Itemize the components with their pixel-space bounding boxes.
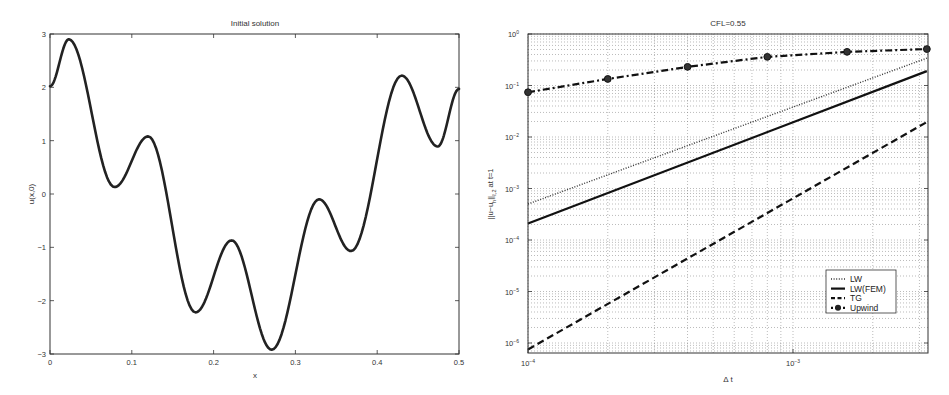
series-lw (528, 58, 927, 204)
left-axis-ticks: 00.10.20.30.40.5−3−2−10123 (37, 30, 464, 367)
y-tick-label: 100 (508, 29, 519, 39)
error-convergence-chart: CFL=0.55 10−410−310−610−510−410−310−210−… (486, 19, 930, 384)
y-tick-label: 10−3 (505, 184, 519, 194)
x-tick-label: 0.1 (127, 358, 137, 367)
y-tick-label: 10−4 (505, 235, 519, 245)
upwind-marker (604, 76, 611, 83)
x-tick-label: 10−4 (521, 358, 535, 368)
x-tick-label: 10−3 (786, 358, 800, 368)
x-tick-label: 0 (48, 358, 52, 367)
figure: Initial solution 00.10.20.30.40.5−3−2−10… (0, 0, 949, 395)
y-tick-label: 1 (42, 137, 46, 146)
series-lw-fem (528, 71, 927, 223)
right-y-axis-label: ||u−uh||ℓ,2 at t=1 (486, 168, 497, 219)
series-tg (528, 122, 927, 349)
y-tick-label: 2 (42, 83, 46, 92)
y-tick-label: 10−1 (505, 81, 519, 91)
initial-solution-curve (50, 39, 459, 349)
upwind-marker (923, 46, 930, 53)
upwind-marker (684, 63, 691, 70)
left-y-axis-label: u(x,0) (27, 183, 36, 204)
left-chart-title: Initial solution (231, 19, 279, 28)
x-tick-label: 0.2 (208, 358, 218, 367)
y-tick-label: −1 (37, 243, 46, 252)
series-upwind (528, 49, 927, 92)
legend-label: LW(FEM) (850, 284, 886, 294)
legend-label: Upwind (850, 303, 879, 313)
y-tick-label: 10−6 (505, 338, 519, 348)
y-tick-label: 3 (42, 30, 46, 39)
right-axis-ticks: 10−410−310−610−510−410−310−210−1100 (505, 29, 928, 368)
upwind-marker (844, 48, 851, 55)
x-tick-label: 0.5 (454, 358, 464, 367)
legend-label: TG (850, 293, 862, 303)
upwind-marker (764, 53, 771, 60)
right-chart-title: CFL=0.55 (710, 19, 746, 28)
y-tick-label: 0 (42, 190, 46, 199)
x-tick-label: 0.3 (290, 358, 300, 367)
left-x-axis-label: x (253, 371, 257, 380)
legend-marker (835, 305, 841, 311)
y-tick-label: −2 (37, 297, 46, 306)
initial-solution-chart: Initial solution 00.10.20.30.40.5−3−2−10… (27, 19, 464, 380)
legend-label: LW (850, 274, 862, 284)
y-tick-label: 10−2 (505, 132, 519, 142)
y-tick-label: 10−5 (505, 287, 519, 297)
x-tick-label: 0.4 (372, 358, 382, 367)
y-tick-label: −3 (37, 350, 46, 359)
legend: LWLW(FEM)TGUpwind (826, 270, 896, 313)
right-x-axis-label: Δ t (723, 375, 733, 384)
